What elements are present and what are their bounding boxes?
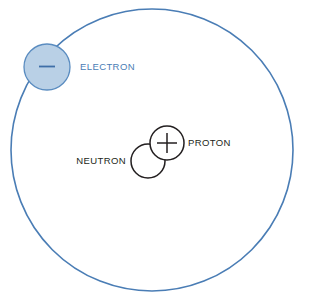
electron-particle <box>24 44 70 90</box>
atom-structure-diagram: ELECTRON NEUTRON PROTON <box>0 0 309 304</box>
neutron-label: NEUTRON <box>76 155 126 166</box>
proton-label: PROTON <box>188 137 231 148</box>
electron-label: ELECTRON <box>80 61 135 72</box>
proton-particle <box>150 126 184 160</box>
